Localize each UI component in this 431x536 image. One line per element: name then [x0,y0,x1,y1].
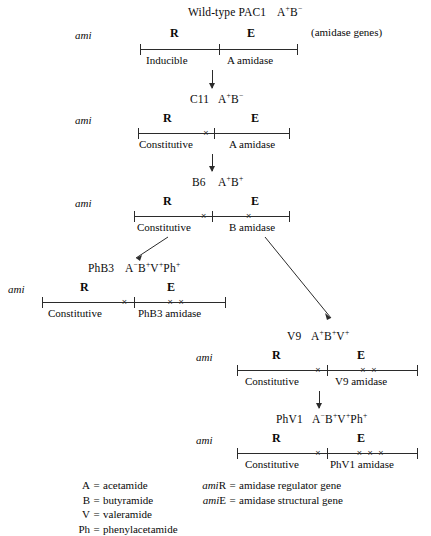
phenotype-superscript: + [176,260,180,269]
mutation-marker: × [357,449,362,458]
mutation-marker: × [371,366,376,375]
ami-label-pac1: ami [75,29,92,41]
legend-row: amiE=amidase structural gene [196,493,343,508]
phenotype-symbol: B [325,413,333,425]
gene-map-pac1 [140,49,297,50]
map-tick [134,211,135,222]
gene-map-phb3: ××× [42,302,225,303]
gene-e-label-pac1: E [247,26,255,41]
map-tick [237,365,238,376]
phenotype-superscript: + [239,174,243,183]
phenotype-symbol: A [218,93,227,105]
map-tick [237,448,238,459]
legend-equals: = [90,522,103,536]
gene-r-label-c11: R [163,111,172,126]
strain-label-v9: V9 [287,330,301,342]
ami-label-b6: ami [75,197,92,209]
strain-label-pac1: Wild-type PAC1 [188,6,266,18]
gene-e-label-phv1: E [357,431,365,446]
gene-map-b6: ×× [134,216,289,217]
legend-row: B=butyramide [68,493,178,508]
phenotype-phv1: A−B+V+Ph+ [312,413,367,425]
phenotype-symbol: A [277,6,286,18]
mutation-marker: × [122,298,127,307]
phenotype-symbol: B [231,176,239,188]
map-tick [212,211,213,222]
mutation-marker: × [360,366,365,375]
gene-r-label-b6: R [163,194,172,209]
arrow-pac1-to-c11 [207,70,218,88]
legend-key: V [68,507,90,522]
legend-equals: = [226,493,239,508]
mutation-marker: × [246,212,251,221]
phenotype-symbol: V [336,330,345,342]
gene-map-c11: × [138,133,289,134]
phenotype-phb3: A−B+V+Ph+ [125,262,180,274]
caption-right-pac1: A amidase [227,54,273,66]
legend-value: amidase regulator gene [239,478,341,493]
map-tick [134,297,135,308]
phenotype-pac1: A+B− [277,6,302,18]
phenotype-symbol: A [125,262,134,274]
gene-r-label-phv1: R [272,431,281,446]
legend-value: valeramide [103,507,152,522]
mutation-marker: × [378,449,383,458]
legend-equals: = [226,478,239,493]
phenotype-v9: A+B+V+ [311,330,349,342]
mutation-marker: × [201,212,206,221]
phenotype-superscript: + [363,411,367,420]
caption-left-c11: Constitutive [139,138,193,150]
legend-value: amidase structural gene [239,493,343,508]
caption-right-v9: V9 amidase [335,375,387,387]
map-tick [42,297,43,308]
map-tick [219,44,220,55]
legend-row: V=valeramide [68,507,178,522]
phenotype-symbol: B [231,93,239,105]
phenotype-symbol: A [312,413,321,425]
ami-label-c11: ami [75,114,92,126]
legend-equals: = [90,478,103,493]
phenotype-c11: A+B− [218,93,243,105]
map-tick [417,365,418,376]
gene-map-v9: ××× [237,370,417,371]
map-tick [297,44,298,55]
legend-key: B [68,493,90,508]
mutation-marker: × [368,449,373,458]
caption-right-phb3: PhB3 amidase [138,307,201,319]
phenotype-b6: A+B+ [218,176,243,188]
legend-genes: amiR=amidase regulator geneamiE=amidase … [196,478,343,507]
amidase-genes-note: (amidase genes) [311,26,382,38]
legend-substrates: A=acetamideB=butyramideV=valeramidePh=ph… [68,478,178,536]
gene-r-label-phb3: R [80,280,89,295]
phenotype-superscript: − [298,4,302,13]
mutation-marker: × [167,298,172,307]
phenotype-symbol: V [150,262,159,274]
strain-label-phv1: PhV1 [276,413,303,425]
phenotype-symbol: B [290,6,298,18]
gene-e-label-phb3: E [167,280,175,295]
legend-value: butyramide [103,493,153,508]
phenotype-symbol: A [311,330,320,342]
map-tick [327,448,328,459]
arrow-c11-to-b6 [207,154,218,171]
legend-key: A [68,478,90,493]
gene-r-label-v9: R [272,348,281,363]
map-tick [417,448,418,459]
mutation-marker: × [315,366,320,375]
phenotype-symbol: B [138,262,146,274]
map-tick [214,128,215,139]
legend-row: Ph=phenylacetamide [68,522,178,536]
mutation-marker: × [203,129,208,138]
ami-label-v9: ami [196,351,213,363]
ami-label-phb3: ami [8,283,25,295]
strain-label-phb3: PhB3 [88,262,114,274]
phenotype-symbol: V [337,413,346,425]
caption-right-phv1: PhV1 amidase [330,458,394,470]
phenotype-superscript: + [345,328,349,337]
gene-r-label-pac1: R [170,26,179,41]
legend-equals: = [90,493,103,508]
caption-left-v9: Constitutive [245,375,299,387]
phenotype-symbol: Ph [163,262,176,274]
strain-label-c11: C11 [190,93,209,105]
